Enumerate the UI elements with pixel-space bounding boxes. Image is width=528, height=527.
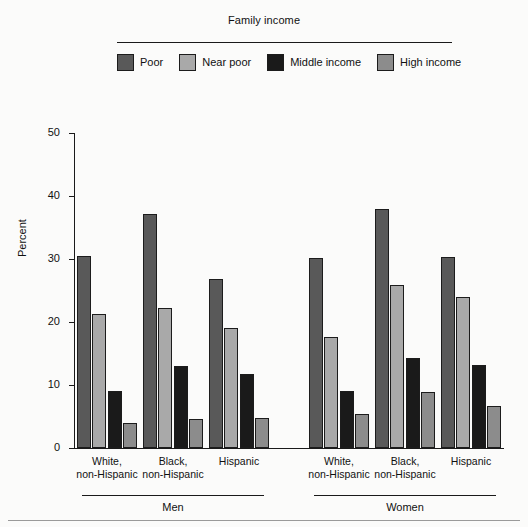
y-axis-tick-label: 30 xyxy=(48,252,60,264)
x-axis-line xyxy=(74,448,504,449)
footer-divider xyxy=(8,520,520,521)
x-axis-group-divider xyxy=(82,495,264,496)
y-axis-tick-label: 50 xyxy=(48,126,60,138)
y-axis-tick: 0 xyxy=(69,448,74,449)
bar xyxy=(77,256,91,448)
legend-swatch-poor xyxy=(117,54,134,71)
y-axis-tick-label: 40 xyxy=(48,189,60,201)
x-axis-group-label: Men xyxy=(82,501,264,513)
legend-swatch-near-poor xyxy=(179,54,196,71)
bar xyxy=(375,209,389,448)
legend-title: Family income xyxy=(0,14,528,26)
bar xyxy=(143,214,157,448)
bar xyxy=(390,285,404,448)
bar xyxy=(355,414,369,448)
plot-area: 01020304050 xyxy=(74,133,504,448)
bar xyxy=(340,391,354,448)
legend-item-label: Poor xyxy=(140,56,163,68)
x-axis-category-label: Hispanic xyxy=(184,455,294,468)
legend-swatch-high-income xyxy=(377,54,394,71)
bar-series-container xyxy=(74,133,504,448)
x-axis-group-divider xyxy=(314,495,496,496)
bar xyxy=(472,365,486,448)
legend-item-label: Middle income xyxy=(290,56,361,68)
y-axis-tick-label: 20 xyxy=(48,315,60,327)
legend-item: High income xyxy=(377,54,461,71)
legend-item-label: High income xyxy=(400,56,461,68)
bar xyxy=(441,257,455,448)
legend-item: Middle income xyxy=(267,54,361,71)
bar xyxy=(224,328,238,448)
bar xyxy=(123,423,137,448)
legend-divider xyxy=(117,42,452,43)
bar xyxy=(174,366,188,448)
x-axis-group-label: Women xyxy=(314,501,496,513)
y-axis-tick-label: 0 xyxy=(54,441,60,453)
y-axis-tick-label: 10 xyxy=(48,378,60,390)
bar xyxy=(487,406,501,448)
legend: PoorNear poorMiddle incomeHigh income xyxy=(117,52,452,72)
legend-swatch-middle-income xyxy=(267,54,284,71)
bar xyxy=(240,374,254,448)
bar xyxy=(189,419,203,448)
bar xyxy=(309,258,323,448)
bar xyxy=(92,314,106,448)
bar xyxy=(456,297,470,448)
bar xyxy=(209,279,223,448)
bar xyxy=(158,308,172,448)
bar xyxy=(324,337,338,449)
legend-item: Poor xyxy=(117,54,163,71)
bar xyxy=(421,392,435,448)
bar xyxy=(255,418,269,448)
legend-item: Near poor xyxy=(179,54,251,71)
legend-item-label: Near poor xyxy=(202,56,251,68)
bar xyxy=(108,391,122,448)
bar xyxy=(406,358,420,448)
y-axis-label: Percent xyxy=(16,219,28,257)
chart-figure: Family income PoorNear poorMiddle income… xyxy=(0,0,528,527)
x-axis-category-label: Hispanic xyxy=(416,455,526,468)
